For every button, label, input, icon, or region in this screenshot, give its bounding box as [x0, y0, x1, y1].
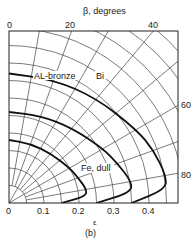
x-tick-0.1: 0.1 [37, 206, 50, 216]
right-tick-60: 60 [181, 100, 191, 110]
top-tick-40: 40 [148, 20, 158, 30]
label-bi: Bi [96, 71, 104, 81]
right-tick-80: 80 [181, 170, 191, 180]
label-fe-dull: Fe, dull [81, 163, 111, 173]
x-tick-0: 0 [6, 206, 11, 216]
caption: (b) [85, 228, 96, 238]
top-axis-label: β, degrees [83, 6, 126, 16]
label-al-bronze: AL-bronze [34, 71, 76, 81]
polar-emissivity-diagram: β, degrees 0 20 40 60 80 0 0.1 0.2 0.3 0… [0, 0, 195, 240]
top-tick-0: 0 [7, 20, 12, 30]
x-tick-0.2: 0.2 [72, 206, 85, 216]
top-tick-20: 20 [65, 20, 75, 30]
x-tick-0.3: 0.3 [107, 206, 120, 216]
x-tick-0.4: 0.4 [142, 206, 155, 216]
x-axis-label: ε [93, 218, 97, 227]
